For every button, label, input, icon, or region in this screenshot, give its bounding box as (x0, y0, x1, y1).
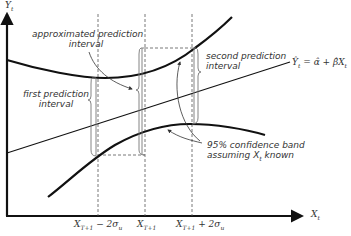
approx-interval-label: approximated prediction interval (32, 29, 140, 49)
regression-equation: Ŷt = α̂ + β̂Xt (292, 57, 347, 69)
tick-label-plus-2sigma: XT+1 + 2σu (176, 219, 224, 231)
x-axis-label: Xt (311, 209, 320, 221)
y-axis-label: Yt (5, 0, 13, 12)
second-interval-bracket (192, 48, 201, 124)
approx-interval-bracket (136, 48, 145, 155)
confidence-band-label: 95% confidence band assuming Xt known (207, 140, 305, 164)
prediction-interval-diagram: Yt Xt XT+1 − 2σu XT+1 XT+1 + 2σu approxi… (0, 0, 351, 236)
second-interval-label: second prediction interval (206, 51, 286, 71)
tick-label-minus-2sigma: XT+1 − 2σu (74, 219, 122, 231)
tick-label-center: XT+1 (137, 219, 156, 231)
first-interval-label: first prediction interval (22, 89, 90, 109)
band-arrow-upper (177, 62, 200, 141)
approx-arrow (89, 52, 132, 89)
band-arrow-lower (168, 130, 202, 143)
